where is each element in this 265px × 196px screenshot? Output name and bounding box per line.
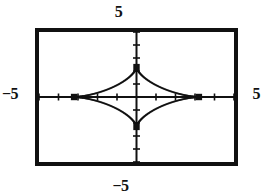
plot-frame [35,28,238,166]
x-max-label: 5 [253,86,261,102]
cusp-marker [196,94,202,100]
y-max-label: 5 [0,4,265,20]
cusp-marker [71,94,77,100]
cusp-marker [133,64,139,70]
astroid-plot [39,32,234,162]
calculator-screenshot: 5 −5 5 −5 [0,0,265,196]
y-min-label: −5 [0,178,265,194]
axes-group [39,32,234,162]
x-min-label: −5 [2,86,18,102]
cusp-marker [133,124,139,130]
